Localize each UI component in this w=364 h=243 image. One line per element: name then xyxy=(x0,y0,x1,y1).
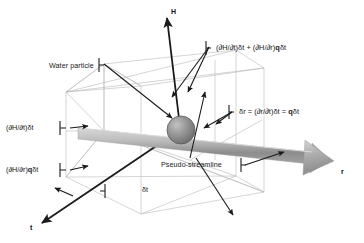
leader-delta-t xyxy=(55,188,73,196)
box-diag-top xyxy=(66,50,236,92)
axis-label-r: r xyxy=(341,168,344,175)
box-edge-bottom-diag xyxy=(141,176,236,214)
bracket-dh-dr xyxy=(60,163,66,177)
pseudo-streamline-figure: H r t Water particle Pseudo-streamline δ… xyxy=(0,0,364,243)
label-delta-r-part2: δt xyxy=(293,107,299,116)
bracket-dh-dt xyxy=(60,121,66,135)
box-face-left xyxy=(66,64,104,177)
leader-dh-dr xyxy=(70,166,88,170)
bracket-delta-r xyxy=(229,105,234,119)
label-dh-dt: (∂H/∂t)δt xyxy=(6,124,34,131)
label-dh-dr-q-prefix: (∂H/∂r) xyxy=(6,165,28,174)
particle-circle xyxy=(167,116,195,144)
axis-label-h: H xyxy=(171,8,176,15)
label-total-head-part2: δt xyxy=(280,43,286,52)
axis-label-t: t xyxy=(30,224,32,231)
leader-delta-r-2 xyxy=(216,112,232,124)
leader-water-particle xyxy=(104,64,172,118)
box-diag-left-face xyxy=(66,92,104,131)
box-edge-bottom-long xyxy=(66,176,236,177)
label-delta-r: δr = (∂r/∂t)δt = qδt xyxy=(239,108,299,115)
label-total-head-part1: (∂H/∂t)δt + (∂H/∂r) xyxy=(216,43,275,52)
diagram-canvas xyxy=(0,0,364,243)
water-particle-sphere xyxy=(167,116,195,144)
label-water-particle: Water particle xyxy=(49,62,94,69)
box-edge-bottom-right xyxy=(236,176,264,192)
leader-delta-r xyxy=(204,112,232,128)
label-total-head-change: (∂H/∂t)δt + (∂H/∂r)qδt xyxy=(216,44,286,51)
streamline-arrowhead xyxy=(303,140,334,175)
bracket-water-particle xyxy=(99,58,104,72)
label-pseudo-streamline: Pseudo-streamline xyxy=(161,161,222,168)
axis-h-line xyxy=(167,18,180,127)
label-dh-dr-q: (∂H/∂r)qδt xyxy=(6,166,38,173)
box-diag-top2 xyxy=(66,68,264,92)
label-dh-dr-q-suffix: δt xyxy=(32,165,38,174)
label-delta-r-part1: δr = (∂r/∂t)δt = xyxy=(239,107,288,116)
leader-total-head-a xyxy=(172,47,209,97)
label-delta-t: δt xyxy=(142,186,148,193)
axis-h xyxy=(167,18,180,127)
bracket-pseudo xyxy=(241,158,246,172)
